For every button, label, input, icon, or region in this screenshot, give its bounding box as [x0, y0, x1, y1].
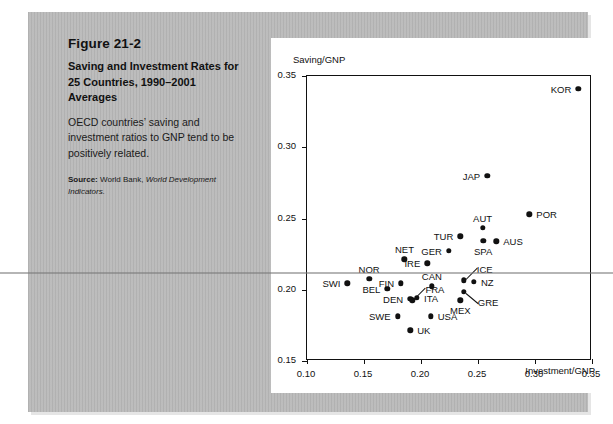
x-tick-mark [421, 359, 422, 364]
data-point-ger [446, 248, 451, 253]
y-axis-title: Saving/GNP [293, 54, 345, 65]
figure-source: Source: World Bank, World Development In… [68, 174, 243, 196]
point-label-ire: IRE [404, 258, 420, 269]
data-point-por [527, 212, 532, 217]
x-tick-mark [307, 359, 308, 364]
data-point-nz [471, 279, 476, 284]
y-tick-label: 0.25 [266, 212, 296, 223]
point-label-ger: GER [421, 245, 442, 256]
point-label-tur: TUR [434, 231, 454, 242]
point-label-aus: AUS [503, 236, 523, 247]
data-point-swe [395, 313, 400, 318]
x-tick-label: 0.15 [346, 368, 380, 379]
point-label-den: DEN [383, 294, 403, 305]
data-point-nor [366, 276, 371, 281]
figure-title: Saving and Investment Rates for 25 Count… [68, 59, 243, 106]
point-label-gre: GRE [478, 296, 499, 307]
data-point-aus [494, 239, 499, 244]
x-tick-label: 0.25 [460, 368, 494, 379]
scanline-artifact [0, 272, 613, 274]
leader-line-gre [465, 293, 478, 304]
y-tick-label: 0.20 [266, 283, 296, 294]
data-point-tur [458, 234, 463, 239]
data-point-kor [576, 86, 581, 91]
x-tick-label: 0.10 [289, 368, 323, 379]
figure-panel: Figure 21-2 Saving and Investment Rates … [28, 12, 588, 412]
point-label-net: NET [395, 244, 414, 255]
y-tick-label: 0.15 [266, 354, 296, 365]
y-tick-label: 0.35 [266, 69, 296, 80]
data-point-jap [484, 173, 489, 178]
chart-card: Saving/GNP Investment/GNP KORJAPPORAUTSP… [271, 38, 603, 393]
scatter-plot: Saving/GNP Investment/GNP KORJAPPORAUTSP… [271, 38, 603, 393]
y-tick-mark [302, 76, 307, 77]
data-point-bel [385, 286, 390, 291]
point-label-kor: KOR [551, 83, 572, 94]
point-label-spa: SPA [474, 245, 492, 256]
point-label-jap: JAP [463, 170, 480, 181]
x-tick-label: 0.20 [403, 368, 437, 379]
data-point-ire [425, 261, 430, 266]
y-tick-mark [302, 147, 307, 148]
data-point-spa [480, 238, 485, 243]
data-point-aut [480, 225, 485, 230]
x-tick-mark [478, 359, 479, 364]
point-label-nz: NZ [481, 276, 494, 287]
y-tick-mark [302, 290, 307, 291]
x-tick-label: 0.35 [574, 368, 608, 379]
point-label-uk: UK [417, 325, 430, 336]
x-tick-mark [535, 359, 536, 364]
plot-frame: KORJAPPORAUTSPAAUSTURGERNETIREICENZCANNO… [306, 75, 591, 360]
source-label: Source: [68, 175, 98, 184]
point-label-bel: BEL [362, 284, 380, 295]
point-label-usa: USA [438, 311, 458, 322]
y-tick-label: 0.30 [266, 140, 296, 151]
source-text: World Bank, [100, 175, 143, 184]
point-label-por: POR [536, 209, 557, 220]
data-point-swi [345, 281, 350, 286]
y-tick-mark [302, 219, 307, 220]
x-tick-mark [364, 359, 365, 364]
data-point-usa [428, 313, 433, 318]
x-tick-mark [592, 359, 593, 364]
data-point-uk [407, 328, 412, 333]
figure-description: OECD countries’ saving and investment ra… [68, 115, 243, 162]
point-label-fra: FRA [425, 284, 444, 295]
data-point-mex [458, 298, 463, 303]
point-label-aut: AUT [473, 212, 492, 223]
figure-caption: Figure 21-2 Saving and Investment Rates … [68, 36, 243, 197]
x-tick-label: 0.30 [517, 368, 551, 379]
point-label-swe: SWE [369, 311, 391, 322]
point-label-swi: SWI [323, 278, 341, 289]
leader-line-ice [465, 269, 477, 281]
data-point-fin [398, 281, 403, 286]
figure-number: Figure 21-2 [68, 36, 243, 51]
